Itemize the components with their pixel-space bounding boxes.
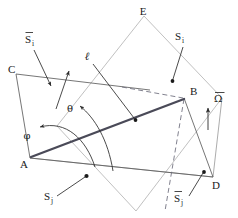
vector-label-s-i-bar-sub: i [32, 39, 34, 48]
leader-s-j-bar-line [189, 173, 203, 196]
edge-C-A [16, 74, 30, 158]
leader-s-j [57, 174, 89, 196]
leader-s-i-bar [34, 50, 51, 86]
leader-s-j-bar-dot [202, 170, 206, 174]
vector-label-s-j-bar-sub: j [180, 198, 183, 207]
edge-B-D [184, 98, 213, 177]
angle-label-theta: θ [67, 103, 73, 114]
leader-ell-line [93, 64, 134, 118]
vertex-label-E: E [140, 5, 147, 17]
figure-root: A B C D E θ φ ℓ S i S i S j S j [0, 0, 238, 218]
arc-phi [40, 126, 95, 167]
leader-ell-dot [134, 118, 138, 122]
vertex-label-B: B [190, 85, 197, 97]
leader-s-j-bar [189, 170, 206, 196]
edge-C-topright [16, 74, 150, 90]
vector-label-s-i-sub: i [182, 36, 184, 45]
vector-label-s-i-bar-base: S [25, 33, 31, 45]
leader-s-j-line [57, 177, 85, 196]
plane-lower-outline [30, 98, 222, 177]
vertex-label-A: A [20, 158, 28, 170]
vector-label-s-i-base: S [175, 30, 181, 42]
geometry-diagram: A B C D E θ φ ℓ S i S i S j S j [0, 0, 238, 218]
arc-theta [80, 106, 113, 171]
vector-label-omega-bar: Ω [214, 93, 222, 104]
vector-label-s-j-base: S [44, 190, 50, 202]
edge-A-D [30, 158, 213, 177]
vector-label-s-i-bar: S i [25, 33, 34, 48]
dashed-edge-to-B [122, 87, 183, 98]
angle-label-phi: φ [23, 130, 30, 141]
vector-label-s-j-bar-base: S [174, 192, 180, 204]
vector-label-s-j: S j [44, 190, 53, 205]
vertex-label-D: D [212, 179, 220, 191]
plane-ACBD-lower [30, 98, 222, 177]
vertex-label-C: C [8, 63, 15, 75]
leader-s-i-bar-line [34, 50, 51, 86]
line-label-ell: ℓ [85, 50, 90, 62]
leader-s-j-dot [84, 174, 88, 178]
vector-label-omega-bar-base: Ω [214, 93, 222, 104]
leader-ell [93, 64, 137, 122]
vector-label-s-j-sub: j [50, 196, 53, 205]
leader-s-i-dot [171, 79, 175, 83]
leader-s-i [171, 47, 183, 83]
vector-label-s-j-bar: S j [174, 192, 183, 207]
vector-label-s-i: S i [175, 30, 184, 45]
